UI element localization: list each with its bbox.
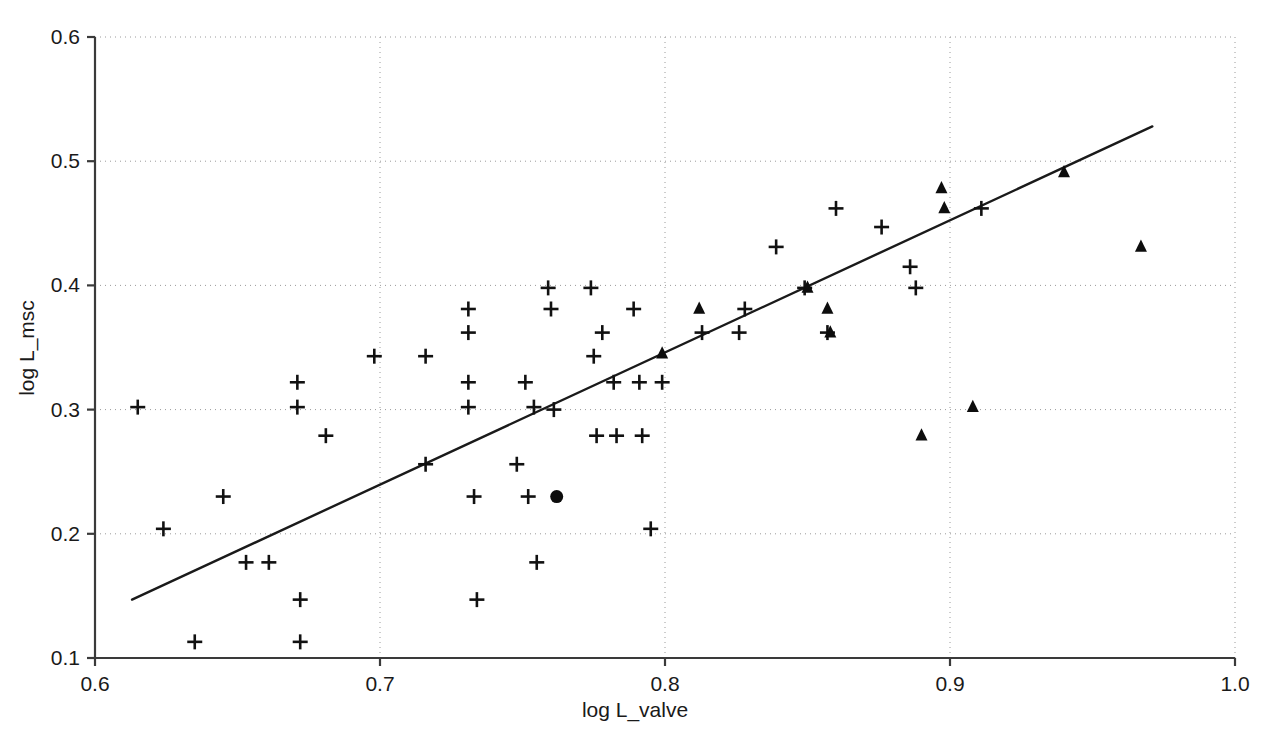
scatter-plot-figure: 0.60.70.80.91.00.10.20.30.40.50.6 log L_… <box>0 0 1271 742</box>
marker-cross <box>290 400 305 415</box>
marker-cross <box>586 349 601 364</box>
marker-cross <box>290 375 305 390</box>
marker-cross <box>655 375 670 390</box>
marker-triangle <box>802 280 814 292</box>
marker-cross <box>216 489 231 504</box>
marker-cross <box>367 349 382 364</box>
marker-cross <box>156 521 171 536</box>
marker-cross <box>461 375 476 390</box>
marker-cross <box>626 301 641 316</box>
marker-triangle <box>938 201 950 213</box>
marker-cross <box>829 201 844 216</box>
marker-cross <box>461 301 476 316</box>
data-markers-group <box>130 165 1147 649</box>
marker-triangle <box>935 181 947 193</box>
x-tick-label: 0.8 <box>650 672 679 695</box>
x-tick-label: 0.9 <box>935 672 964 695</box>
marker-cross <box>606 375 621 390</box>
y-tick-label: 0.2 <box>51 522 80 545</box>
marker-cross <box>418 457 433 472</box>
marker-cross <box>908 280 923 295</box>
y-tick-label: 0.6 <box>51 25 80 48</box>
marker-cross <box>526 400 541 415</box>
gridlines-group <box>95 37 1235 658</box>
chart-canvas: 0.60.70.80.91.00.10.20.30.40.50.6 log L_… <box>0 0 1271 742</box>
y-tick-label: 0.5 <box>51 149 80 172</box>
marker-triangle <box>693 302 705 314</box>
marker-cross <box>732 325 747 340</box>
marker-triangle <box>967 400 979 412</box>
marker-cross <box>509 457 524 472</box>
marker-cross <box>518 375 533 390</box>
marker-cross <box>609 428 624 443</box>
y-tick-label: 0.4 <box>51 273 81 296</box>
marker-cross <box>546 402 561 417</box>
marker-cross <box>261 555 276 570</box>
marker-triangle <box>821 302 833 314</box>
fit-line-segment <box>132 126 1152 599</box>
marker-cross <box>595 325 610 340</box>
y-tick-label: 0.3 <box>51 398 80 421</box>
marker-cross <box>769 239 784 254</box>
marker-cross <box>541 280 556 295</box>
marker-cross <box>318 428 333 443</box>
marker-cross <box>635 428 650 443</box>
marker-cross <box>529 555 544 570</box>
marker-cross <box>583 280 598 295</box>
marker-cross <box>469 592 484 607</box>
y-tick-label: 0.1 <box>51 646 80 669</box>
marker-cross <box>632 375 647 390</box>
x-tick-label: 0.6 <box>80 672 109 695</box>
x-tick-label: 0.7 <box>365 672 394 695</box>
marker-cross <box>461 325 476 340</box>
marker-cross <box>187 634 202 649</box>
marker-cross <box>293 592 308 607</box>
marker-cross <box>521 489 536 504</box>
marker-triangle <box>916 428 928 440</box>
y-axis-label: log L_msc <box>15 300 39 396</box>
marker-circle <box>550 490 563 503</box>
marker-triangle <box>1135 239 1147 251</box>
marker-cross <box>239 555 254 570</box>
marker-cross <box>903 259 918 274</box>
marker-cross <box>461 400 476 415</box>
x-tick-label: 1.0 <box>1220 672 1249 695</box>
marker-cross <box>544 301 559 316</box>
marker-cross <box>589 428 604 443</box>
regression-line <box>132 126 1152 599</box>
marker-triangle <box>824 325 836 337</box>
marker-cross <box>418 349 433 364</box>
x-axis-label: log L_valve <box>582 698 688 722</box>
marker-cross <box>293 634 308 649</box>
marker-cross <box>130 400 145 415</box>
marker-cross <box>874 220 889 235</box>
marker-cross <box>467 489 482 504</box>
